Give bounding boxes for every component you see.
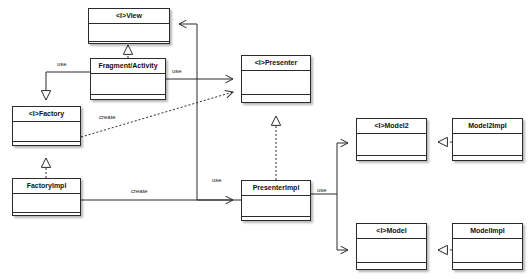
- class-name-model: <I>Model: [357, 224, 426, 239]
- class-box-view[interactable]: <I>View: [88, 8, 170, 44]
- class-name-model2impl: Model2Impl: [453, 119, 522, 134]
- edge-label-use-presenter: use: [172, 68, 182, 74]
- class-attributes-view: [89, 24, 169, 42]
- class-attributes-factory: [13, 122, 80, 142]
- edge-label-create-top: create: [99, 114, 116, 120]
- class-box-factory[interactable]: <I>Factory: [12, 106, 81, 146]
- class-box-modelimpl[interactable]: ModelImpl: [452, 223, 523, 270]
- edge-fragment-uses-factory: [46, 72, 90, 100]
- class-attributes-model: [357, 239, 426, 263]
- class-name-model2: <I>Model2: [357, 119, 426, 134]
- class-box-model[interactable]: <I>Model: [356, 223, 427, 270]
- class-attributes-fragment-activity: [91, 74, 165, 95]
- class-attributes-presenter: [242, 71, 310, 95]
- class-box-model2[interactable]: <I>Model2: [356, 118, 427, 161]
- class-box-presenter[interactable]: <I>Presenter: [241, 55, 311, 103]
- class-box-presenterimpl[interactable]: PresenterImpl: [241, 180, 311, 221]
- class-attributes-presenterimpl: [242, 196, 310, 217]
- class-attributes-model2impl: [453, 134, 522, 156]
- class-name-view: <I>View: [89, 9, 169, 24]
- class-name-modelimpl: ModelImpl: [453, 224, 522, 239]
- edge-label-use-factory: use: [57, 61, 67, 67]
- class-box-fragment-activity[interactable]: Fragment/Activity: [90, 58, 166, 100]
- edge-label-use-model: use: [317, 187, 327, 193]
- class-name-factory: <I>Factory: [13, 107, 80, 122]
- uml-diagram-canvas: Factory : use --> Presenter : use --> Vi…: [0, 0, 529, 279]
- edge-label-use-mid: use: [212, 177, 222, 183]
- class-box-model2impl[interactable]: Model2Impl: [452, 118, 523, 161]
- class-name-fragment-activity: Fragment/Activity: [91, 59, 165, 74]
- class-name-presenter: <I>Presenter: [242, 56, 310, 71]
- class-attributes-factoryimpl: [13, 194, 80, 213]
- class-box-factoryimpl[interactable]: FactoryImpl: [12, 178, 81, 216]
- edge-presenterimpl-knows-view: [179, 24, 311, 200]
- class-name-presenterimpl: PresenterImpl: [242, 181, 310, 196]
- class-name-factoryimpl: FactoryImpl: [13, 179, 80, 194]
- class-attributes-modelimpl: [453, 239, 522, 263]
- class-attributes-model2: [357, 134, 426, 156]
- edge-presenterimpl-uses-model2: [337, 143, 348, 194]
- edge-label-create-bottom: create: [131, 188, 148, 194]
- edge-presenterimpl-uses-model: [337, 194, 348, 250]
